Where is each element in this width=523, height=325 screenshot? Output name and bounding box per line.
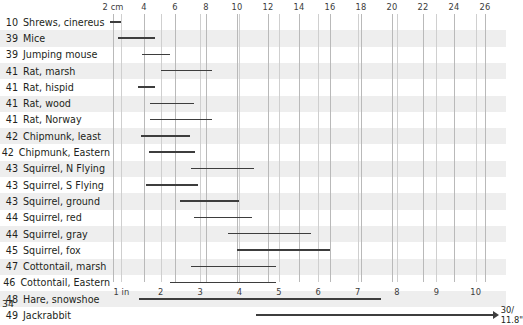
tick-label-cm: 14 — [294, 2, 305, 12]
table-row[interactable] — [0, 210, 506, 226]
table-row[interactable] — [0, 161, 506, 177]
end-label-line-2: 11.8" — [501, 316, 523, 325]
table-row[interactable]: 30/11.8" — [0, 307, 506, 323]
table-row[interactable] — [0, 63, 506, 79]
table-row[interactable] — [0, 79, 506, 95]
table-row[interactable] — [0, 275, 506, 291]
tick-label-cm: 20 — [387, 2, 398, 12]
range-bar[interactable] — [170, 282, 275, 284]
range-bar[interactable] — [150, 119, 212, 121]
table-row[interactable] — [0, 259, 506, 275]
table-row[interactable] — [0, 47, 506, 63]
range-bar[interactable] — [150, 103, 193, 105]
range-bar[interactable] — [161, 70, 212, 72]
range-bar[interactable] — [194, 217, 253, 219]
range-bar[interactable] — [180, 200, 239, 202]
tick-label-cm: 2 cm — [103, 2, 124, 12]
range-bar[interactable] — [110, 21, 121, 23]
range-bar[interactable] — [149, 151, 196, 153]
tick-label-cm: 12 — [263, 2, 274, 12]
range-bar[interactable] — [142, 54, 170, 56]
table-row[interactable] — [0, 226, 506, 242]
arrow-head-icon — [493, 311, 499, 319]
table-row[interactable] — [0, 242, 506, 258]
tick-label-cm: 4 — [141, 2, 146, 12]
tick-label-cm: 10 — [232, 2, 243, 12]
tick-label-cm: 8 — [203, 2, 208, 12]
range-bar[interactable] — [191, 168, 255, 170]
range-bar[interactable] — [228, 233, 312, 235]
table-row[interactable] — [0, 177, 506, 193]
table-row[interactable] — [0, 30, 506, 46]
table-row[interactable] — [0, 144, 506, 160]
table-row[interactable] — [0, 291, 506, 307]
bars-layer: 30/11.8" — [0, 14, 506, 282]
tick-label-cm: 6 — [172, 2, 177, 12]
tick-label-cm: 24 — [449, 2, 460, 12]
table-row[interactable] — [0, 96, 506, 112]
range-bar[interactable] — [138, 86, 155, 88]
page-number: 34 — [2, 298, 14, 309]
end-label: 30/11.8" — [501, 306, 523, 325]
tick-label-cm: 16 — [325, 2, 336, 12]
table-row[interactable] — [0, 14, 506, 30]
range-bar[interactable] — [141, 135, 191, 137]
tick-label-cm: 22 — [418, 2, 429, 12]
range-bar[interactable] — [191, 266, 276, 268]
range-bar[interactable] — [256, 314, 493, 316]
range-bar[interactable] — [237, 249, 330, 251]
table-row[interactable] — [0, 128, 506, 144]
table-row[interactable] — [0, 193, 506, 209]
range-bar[interactable] — [118, 37, 155, 39]
range-bar[interactable] — [146, 184, 199, 186]
table-row[interactable] — [0, 112, 506, 128]
range-bar[interactable] — [139, 298, 381, 300]
tick-label-cm: 26 — [480, 2, 491, 12]
tick-label-cm: 18 — [356, 2, 367, 12]
